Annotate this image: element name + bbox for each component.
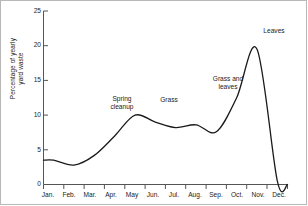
- chart-canvas: [1, 1, 308, 206]
- axes: [44, 11, 288, 189]
- chart-figure: Percentage of yearly yard waste 25 20 15…: [0, 0, 307, 205]
- data-series-line: [44, 47, 288, 192]
